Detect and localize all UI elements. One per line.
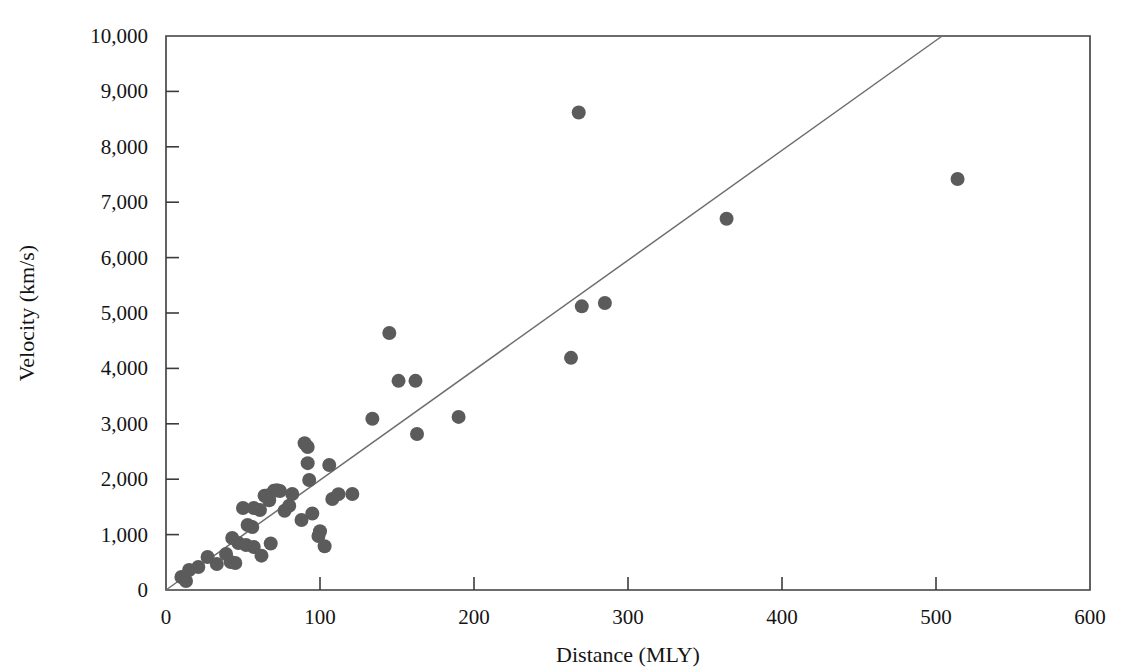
y-tick-label: 2,000 xyxy=(101,467,148,491)
data-point xyxy=(254,549,268,563)
data-point xyxy=(302,473,316,487)
data-point xyxy=(598,296,612,310)
data-point xyxy=(301,440,315,454)
x-tick-label: 500 xyxy=(920,605,952,629)
data-point xyxy=(264,536,278,550)
y-tick-label: 5,000 xyxy=(101,301,148,325)
data-point xyxy=(301,456,315,470)
y-tick-label: 8,000 xyxy=(101,135,148,159)
data-point xyxy=(305,507,319,521)
data-point xyxy=(410,427,424,441)
data-point xyxy=(408,374,422,388)
data-point xyxy=(720,212,734,226)
axes xyxy=(166,36,1090,590)
data-point xyxy=(322,458,336,472)
data-point xyxy=(572,105,586,119)
data-point xyxy=(285,487,299,501)
x-tick-label: 200 xyxy=(458,605,490,629)
y-tick-label: 1,000 xyxy=(101,523,148,547)
scatter-chart: 01,0002,0003,0004,0005,0006,0007,0008,00… xyxy=(0,0,1132,672)
data-point xyxy=(228,556,242,570)
y-tick-label: 4,000 xyxy=(101,356,148,380)
x-axis-title: Distance (MLY) xyxy=(556,642,700,667)
y-tick-label: 0 xyxy=(138,578,149,602)
y-tick-label: 9,000 xyxy=(101,79,148,103)
data-point xyxy=(282,499,296,513)
y-tick-label: 10,000 xyxy=(90,24,148,48)
data-point xyxy=(273,484,287,498)
x-tick-label: 600 xyxy=(1074,605,1106,629)
data-point xyxy=(951,172,965,186)
data-point xyxy=(392,374,406,388)
data-point xyxy=(345,487,359,501)
x-tick-label: 300 xyxy=(612,605,644,629)
data-point xyxy=(318,539,332,553)
y-tick-label: 7,000 xyxy=(101,190,148,214)
x-tick-label: 100 xyxy=(304,605,336,629)
data-point xyxy=(575,299,589,313)
data-point xyxy=(313,524,327,538)
x-tick-label: 400 xyxy=(766,605,798,629)
data-point xyxy=(225,531,239,545)
data-points xyxy=(174,105,964,588)
y-tick-label: 6,000 xyxy=(101,246,148,270)
data-point xyxy=(365,412,379,426)
axis-frame xyxy=(166,36,1090,590)
y-tick-label: 3,000 xyxy=(101,412,148,436)
data-point xyxy=(382,326,396,340)
y-axis-title: Velocity (km/s) xyxy=(14,245,39,381)
data-point xyxy=(245,520,259,534)
x-tick-label: 0 xyxy=(161,605,172,629)
data-point xyxy=(452,410,466,424)
x-axis-ticks: 0100200300400500600 xyxy=(161,577,1106,629)
plot-canvas: 01,0002,0003,0004,0005,0006,0007,0008,00… xyxy=(0,0,1132,672)
data-point xyxy=(564,351,578,365)
data-point xyxy=(331,487,345,501)
